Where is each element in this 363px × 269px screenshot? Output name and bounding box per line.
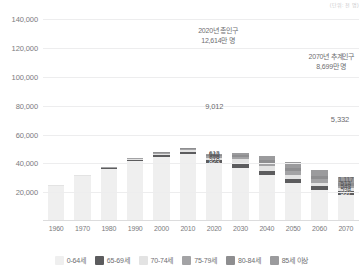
bar-value-label: 613 <box>206 150 222 157</box>
y-axis-tick-label: 20,000 <box>16 188 38 197</box>
legend-item[interactable]: 85세 이상 <box>270 255 309 265</box>
legend-label: 70-74세 <box>151 255 174 265</box>
legend-label: 75-79세 <box>194 255 217 265</box>
bar-segment <box>153 157 169 221</box>
x-axis-tick-label: 1960 <box>43 225 69 232</box>
bar-segment <box>311 190 327 221</box>
legend-swatch <box>270 256 279 265</box>
bar-segment <box>259 175 275 221</box>
legend-label: 0-64세 <box>67 255 86 265</box>
bar-segment <box>101 169 117 221</box>
bar-column[interactable] <box>101 167 117 221</box>
x-axis-tick-label: 2010 <box>175 225 201 232</box>
legend-item[interactable]: 0-64세 <box>55 255 86 265</box>
legend-item[interactable]: 70-74세 <box>139 255 174 265</box>
gridline <box>43 48 359 49</box>
y-axis-labels: 20,00040,00060,00080,000100,000120,00014… <box>0 12 41 221</box>
legend-item[interactable]: 80-84세 <box>226 255 261 265</box>
bar-total-label: 9,012 <box>205 102 223 111</box>
legend-swatch <box>182 256 191 265</box>
x-axis-tick-label: 2070 <box>333 225 359 232</box>
x-axis-tick-label: 1980 <box>96 225 122 232</box>
plot-area: 1960197019801990200020102020203020402050… <box>43 12 359 221</box>
x-axis-tick-label: 1970 <box>69 225 95 232</box>
gridline <box>43 106 359 107</box>
x-axis-tick-label: 2050 <box>280 225 306 232</box>
y-axis-tick-label: 60,000 <box>16 130 38 139</box>
legend-swatch <box>139 256 148 265</box>
x-axis-tick-label: 2060 <box>306 225 332 232</box>
x-axis-tick-label: 2020 <box>201 225 227 232</box>
bar-segment <box>338 195 354 221</box>
legend-label: 65-69세 <box>107 255 130 265</box>
chart-annotation: 2020년 총인구12,614만 명 <box>198 26 238 46</box>
bar-segment <box>74 176 90 221</box>
gridline <box>43 19 359 20</box>
bar-column[interactable] <box>311 170 327 221</box>
y-axis-tick-label: 120,000 <box>12 44 38 53</box>
gridline <box>43 135 359 136</box>
chart-annotation: 2070년 추계인구8,699만 명 <box>309 52 355 72</box>
gridline <box>43 163 359 164</box>
bar-column[interactable] <box>127 158 143 221</box>
x-axis-tick-label: 1990 <box>122 225 148 232</box>
bar-segment <box>127 161 143 221</box>
bar-segment <box>232 168 248 221</box>
bar-value-label: 1,117 <box>338 176 354 183</box>
legend-swatch <box>95 256 104 265</box>
gridline <box>43 192 359 193</box>
legend-swatch <box>226 256 235 265</box>
x-axis-tick-label: 2000 <box>148 225 174 232</box>
y-axis-tick-label: 40,000 <box>16 159 38 168</box>
bar-column[interactable] <box>259 156 275 221</box>
bar-column[interactable] <box>153 152 169 221</box>
x-axis-line <box>43 220 359 221</box>
y-axis-tick-label: 80,000 <box>16 101 38 110</box>
bar-column[interactable] <box>74 175 90 221</box>
y-axis-tick-label: 100,000 <box>12 72 38 81</box>
unit-note: (단위: 천 명) <box>330 1 359 8</box>
chart-legend: 0-64세65-69세70-74세75-79세80-84세85세 이상 <box>0 255 363 265</box>
legend-swatch <box>55 256 64 265</box>
legend-item[interactable]: 65-69세 <box>95 255 130 265</box>
x-axis-tick-label: 2040 <box>254 225 280 232</box>
legend-item[interactable]: 75-79세 <box>182 255 217 265</box>
gridline <box>43 77 359 78</box>
population-projection-chart: (단위: 천 명) 20,00040,00060,00080,000100,00… <box>0 0 363 269</box>
legend-label: 85세 이상 <box>282 255 309 265</box>
bar-total-label: 5,332 <box>331 115 349 124</box>
bar-column[interactable] <box>180 148 196 221</box>
x-axis-tick-label: 2030 <box>227 225 253 232</box>
legend-label: 80-84세 <box>238 255 261 265</box>
y-axis-tick-label: 140,000 <box>12 15 38 24</box>
bar-column[interactable] <box>48 185 64 221</box>
bar-segment <box>285 183 301 221</box>
